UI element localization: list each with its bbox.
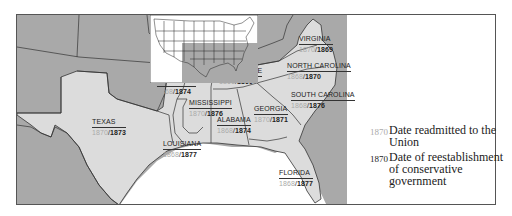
map-legend: 1870 Date readmitted to the Union 1870 D… (370, 124, 512, 190)
state-label-georgia: GEORGIA 1870/1871 (254, 105, 288, 124)
state-label-north-carolina: NORTH CAROLINA 1868/1870 (287, 62, 351, 81)
legend-year-conservative: 1870 (370, 151, 389, 165)
state-label-texas: TEXAS 1870/1873 (92, 118, 126, 137)
state-label-florida: FLORIDA 1868/1877 (279, 169, 313, 188)
legend-year-readmitted: 1870 (370, 124, 389, 138)
state-label-alabama: ALABAMA 1868/1874 (217, 116, 251, 135)
legend-label-conservative: Date of reestablishment of conservative … (389, 151, 512, 187)
state-label-south-carolina: SOUTH CAROLINA 1868/1876 (291, 91, 355, 110)
inset-locator-map (150, 15, 258, 83)
state-label-louisiana: LOUISIANA 1868/1877 (163, 140, 201, 159)
state-label-virginia: VIRGINIA 1870/1869 (299, 35, 333, 54)
legend-item-conservative: 1870 Date of reestablishment of conserva… (370, 151, 512, 187)
legend-label-readmitted: Date readmitted to the Union (389, 124, 512, 148)
legend-item-readmitted: 1870 Date readmitted to the Union (370, 124, 512, 148)
